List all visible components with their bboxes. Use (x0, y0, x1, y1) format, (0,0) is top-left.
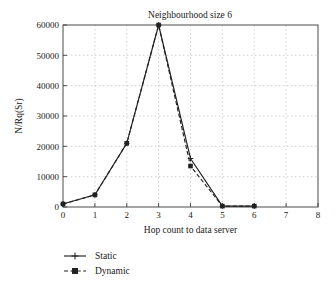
y-axis-title: N/Rq(Sr) (14, 98, 25, 133)
y-tick-label-0: 0 (55, 202, 60, 212)
data-point (61, 202, 66, 207)
y-tick-label-40000: 40000 (37, 81, 60, 91)
data-point (220, 204, 225, 209)
chart-figure: Neighbourhood size 6 (0, 0, 336, 287)
x-tick-label-2: 2 (125, 210, 130, 220)
legend-label-static: Static (95, 251, 117, 261)
x-tick-label-7: 7 (284, 210, 289, 220)
y-axis-ticks (63, 25, 67, 207)
legend: Static Dynamic (64, 251, 130, 276)
line-chart: Neighbourhood size 6 (0, 0, 336, 287)
y-tick-label-10000: 10000 (37, 172, 60, 182)
data-point (188, 164, 193, 169)
x-tick-label-0: 0 (61, 210, 66, 220)
series-dynamic (61, 23, 257, 209)
x-axis-ticks (63, 203, 318, 207)
series-line-static (63, 25, 254, 206)
y-tick-label-50000: 50000 (37, 51, 60, 61)
x-tick-label-4: 4 (188, 210, 193, 220)
y-tick-label-30000: 30000 (37, 111, 60, 121)
legend-label-dynamic: Dynamic (95, 266, 130, 276)
x-tick-label-8: 8 (316, 210, 321, 220)
y-tick-label-20000: 20000 (37, 142, 60, 152)
x-axis-title: Hop count to data server (144, 225, 238, 235)
legend-item-dynamic[interactable]: Dynamic (64, 266, 130, 276)
x-tick-label-3: 3 (156, 210, 161, 220)
x-tick-label-1: 1 (93, 210, 98, 220)
chart-title: Neighbourhood size 6 (148, 10, 232, 20)
data-point (156, 23, 161, 28)
x-tick-label-5: 5 (220, 210, 225, 220)
legend-marker-dynamic (72, 268, 78, 274)
legend-item-static[interactable]: Static (64, 251, 117, 261)
x-tick-label-6: 6 (252, 210, 257, 220)
series-line-dynamic (63, 25, 254, 206)
data-point (93, 193, 98, 198)
data-point (252, 204, 257, 209)
y-tick-label-60000: 60000 (37, 20, 60, 30)
data-point (124, 141, 129, 146)
